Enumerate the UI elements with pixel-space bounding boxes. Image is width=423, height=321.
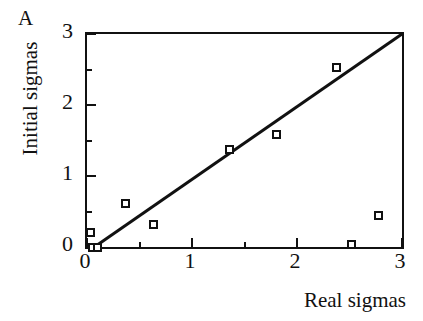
reference-line-segment [94,34,402,247]
x-tick-minor [139,242,141,247]
y-tick-label: 3 [45,20,73,42]
x-tick-major [191,238,193,247]
y-tick-label: 1 [45,162,73,184]
y-tick-major [87,33,96,35]
data-point-marker [225,145,234,154]
y-tick-major [87,104,96,106]
y-tick-minor [87,140,92,142]
plot-area [85,32,404,249]
data-point-marker [121,199,130,208]
data-point-marker [86,228,95,237]
data-point-marker [347,240,356,249]
plot-inner [87,34,402,247]
y-tick-major [87,175,96,177]
x-tick-label: 2 [275,250,315,272]
y-tick-label: 0 [45,233,73,255]
identity-reference-line [87,34,402,247]
y-axis-title: Initial sigmas [18,9,43,189]
x-axis-title: Real sigmas [0,288,406,313]
x-tick-label: 1 [170,250,210,272]
x-tick-minor [244,242,246,247]
data-point-marker [272,130,281,139]
x-tick-major [401,238,403,247]
data-point-marker [149,220,158,229]
y-tick-minor [87,211,92,213]
data-point-marker [332,63,341,72]
x-tick-major [296,238,298,247]
figure-panel-a: A Initial sigmas Real sigmas 01230123 [0,0,423,321]
y-tick-label: 2 [45,91,73,113]
x-tick-label: 3 [380,250,420,272]
data-point-marker [374,211,383,220]
y-tick-minor [87,69,92,71]
